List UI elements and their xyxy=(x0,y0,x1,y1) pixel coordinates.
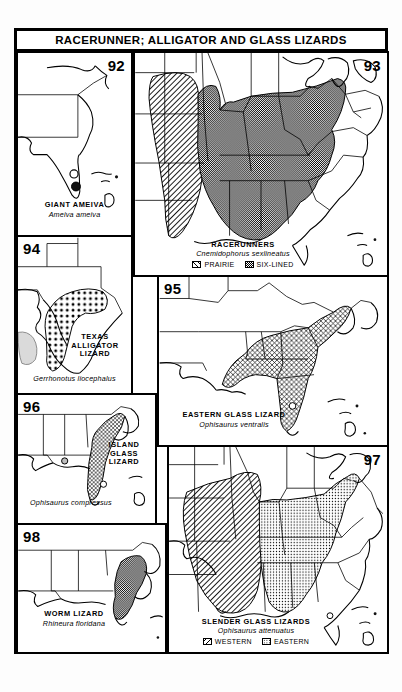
legend-label-eastern: EASTERN xyxy=(274,638,309,646)
legend-swatch-six-lined xyxy=(245,261,254,268)
panel-caption-94-scientific: Gerrhonotus liocephalus xyxy=(18,374,131,383)
panel-number-95: 95 xyxy=(164,280,181,297)
panel-caption-96-scientific: Ophisaurus compressus xyxy=(30,498,96,507)
map-panel-94[interactable]: 94 xyxy=(16,235,133,395)
legend-item-six-lined: SIX-LINED xyxy=(245,261,294,269)
map-panel-92[interactable]: 92 GIANT AMEIVA xyxy=(16,51,133,237)
panel-caption-93: RACERUNNERS Cnemidophorus sexlineatus PR… xyxy=(155,241,331,269)
panel-caption-98: WORM LIZARD Rhineura floridana xyxy=(22,610,126,628)
species-common-name: WORM LIZARD xyxy=(22,610,126,619)
species-common-name: GIANT AMEIVA xyxy=(18,201,131,210)
range-six-lined xyxy=(197,79,345,240)
species-common-name-line-3: LIZARD xyxy=(98,458,150,467)
map-legend-97: WESTERN EASTERN xyxy=(183,638,329,646)
legend-item-prairie: PRAIRIE xyxy=(192,261,234,269)
range-eastern xyxy=(259,474,359,612)
map-outline-94 xyxy=(18,237,131,393)
species-scientific-name: Gerrhonotus liocephalus xyxy=(18,375,131,383)
panel-number-92: 92 xyxy=(108,57,125,74)
page-title: RACERUNNER; ALLIGATOR AND GLASS LIZARDS xyxy=(55,34,347,46)
legend-swatch-eastern xyxy=(262,638,271,645)
range-western xyxy=(183,472,262,613)
plate-frame: RACERUNNER; ALLIGATOR AND GLASS LIZARDS … xyxy=(14,28,388,654)
panel-number-94: 94 xyxy=(23,240,40,257)
legend-item-western: WESTERN xyxy=(203,638,252,646)
legend-label-six-lined: SIX-LINED xyxy=(257,261,294,269)
legend-swatch-prairie xyxy=(192,261,201,268)
panel-caption-95: EASTERN GLASS LIZARD Ophisaurus ventrali… xyxy=(171,411,297,429)
map-legend-93: PRAIRIE SIX-LINED xyxy=(155,261,331,269)
map-panel-96[interactable]: 96 xyxy=(16,393,157,525)
range-prairie xyxy=(149,73,204,238)
species-scientific-name: Ameiva ameiva xyxy=(18,211,131,219)
species-scientific-name: Ophisaurus ventralis xyxy=(171,421,297,429)
panel-number-93: 93 xyxy=(364,57,381,74)
panel-caption-97: SLENDER GLASS LIZARDS Ophisaurus attenua… xyxy=(183,618,329,646)
map-panel-98[interactable]: 98 xyxy=(16,523,167,654)
map-panel-95[interactable]: 95 xyxy=(157,275,389,447)
plate-title-bar: RACERUNNER; ALLIGATOR AND GLASS LIZARDS xyxy=(17,31,385,52)
species-common-name: SLENDER GLASS LIZARDS xyxy=(183,618,329,627)
map-panel-93[interactable]: 93 xyxy=(133,51,389,277)
species-scientific-name: Rhineura floridana xyxy=(22,620,126,628)
species-common-name-line-3: LIZARD xyxy=(65,350,125,359)
panel-caption-96-common: ISLAND GLASS LIZARD xyxy=(98,441,150,467)
species-scientific-name: Ophisaurus attenuatus xyxy=(183,627,329,635)
species-scientific-name: Cnemidophorus sexlineatus xyxy=(155,250,331,258)
panel-number-96: 96 xyxy=(23,398,40,415)
species-scientific-name: Ophisaurus compressus xyxy=(30,499,96,507)
map-panel-97[interactable]: 97 xyxy=(167,445,389,654)
species-common-name: EASTERN GLASS LIZARD xyxy=(171,411,297,420)
legend-label-western: WESTERN xyxy=(215,638,252,646)
panel-number-97: 97 xyxy=(364,451,381,468)
panel-caption-94-common: TEXAS ALLIGATOR LIZARD xyxy=(65,333,125,359)
panel-caption-92: GIANT AMEIVA Ameiva ameiva xyxy=(18,201,131,219)
legend-label-prairie: PRAIRIE xyxy=(204,261,234,269)
species-common-name: RACERUNNERS xyxy=(155,241,331,250)
panel-number-98: 98 xyxy=(23,528,40,545)
legend-swatch-western xyxy=(203,638,212,645)
legend-item-eastern: EASTERN xyxy=(262,638,309,646)
